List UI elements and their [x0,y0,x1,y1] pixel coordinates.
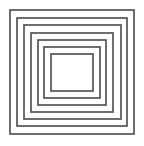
square-2 [17,18,127,126]
diagram-canvas [0,0,144,146]
square-5 [38,40,106,105]
square-1 [10,10,134,134]
square-7 [51,54,93,91]
concentric-squares-diagram [0,0,144,146]
